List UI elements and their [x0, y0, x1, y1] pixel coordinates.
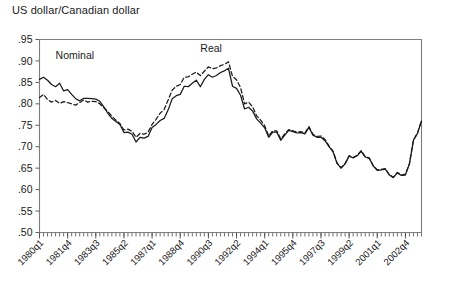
y-tick-label: .95 [18, 33, 33, 45]
y-tick-label: .80 [18, 97, 33, 109]
y-tick-label: .55 [18, 205, 33, 217]
series-line-nominal [40, 68, 422, 177]
x-tick-label: 1983q3 [72, 237, 102, 267]
x-tick-label: 1980q1 [15, 237, 45, 267]
x-tick-label: 1990q3 [184, 237, 214, 267]
chart-plot-area: .95.90.85.80.75.70.65.60.55.50 1980q1198… [0, 0, 451, 287]
y-tick-label: .65 [18, 162, 33, 174]
y-axis-ticks: .95.90.85.80.75.70.65.60.55.50 [18, 33, 40, 238]
x-tick-label: 1999q2 [325, 237, 355, 267]
x-tick-label: 2001q1 [353, 237, 383, 267]
x-tick-label: 1997q3 [297, 237, 327, 267]
y-tick-label: .60 [18, 183, 33, 195]
data-series-group [40, 62, 422, 178]
series-label-nominal: Nominal [56, 49, 95, 61]
x-tick-label: 1988q4 [156, 237, 186, 267]
y-tick-label: .85 [18, 76, 33, 88]
y-tick-label: .70 [18, 140, 33, 152]
chart-figure: US dollar/Canadian dollar .95.90.85.80.7… [0, 0, 451, 287]
x-tick-label: 1995q4 [269, 237, 299, 267]
x-tick-label: 2002q4 [381, 237, 411, 267]
series-annotations: NominalReal [56, 42, 222, 60]
x-tick-label: 1981q4 [43, 237, 73, 267]
x-axis-minor-ticks [40, 233, 422, 237]
x-tick-label: 1987q1 [128, 237, 158, 267]
x-tick-label: 1994q1 [240, 237, 270, 267]
y-tick-label: .90 [18, 55, 33, 67]
series-label-real: Real [200, 42, 222, 54]
x-axis-ticks: 1980q11981q41983q31985q21987q11988q41990… [15, 233, 411, 268]
y-tick-label: .75 [18, 119, 33, 131]
x-tick-label: 1985q2 [100, 237, 130, 267]
x-tick-label: 1992q2 [212, 237, 242, 267]
y-tick-label: .50 [18, 226, 33, 238]
